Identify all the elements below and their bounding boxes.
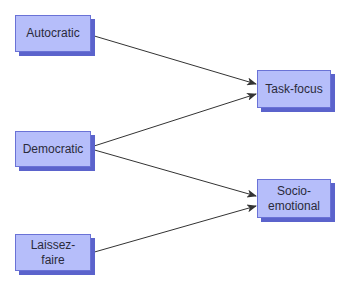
node-autocratic: Autocratic [15, 15, 91, 52]
node-democratic: Democratic [15, 131, 91, 167]
leadership-style-diagram: Autocratic Democratic Laissez- faire Tas… [0, 0, 349, 290]
node-label: Task-focus [265, 82, 322, 97]
arrow-democratic-to-task-focus [91, 94, 256, 147]
node-task-focus: Task-focus [257, 70, 331, 108]
arrow-autocratic-to-task-focus [91, 35, 256, 84]
node-label-line1: Laissez- [31, 238, 76, 253]
node-laissez-faire: Laissez- faire [15, 234, 91, 271]
arrow-laissez-faire-to-socio-emotional [91, 206, 256, 253]
node-label-line1: Socio- [277, 184, 311, 199]
node-label-line2: faire [41, 253, 64, 268]
node-label: Autocratic [26, 26, 79, 41]
node-socio-emotional: Socio- emotional [257, 179, 331, 218]
node-label-line2: emotional [268, 199, 320, 214]
arrow-democratic-to-socio-emotional [91, 149, 256, 196]
node-label: Democratic [23, 142, 84, 157]
